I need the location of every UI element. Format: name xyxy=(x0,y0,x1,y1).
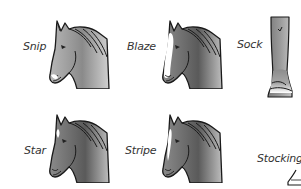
horse-head-stripe-icon xyxy=(160,111,224,183)
label-star: Star xyxy=(24,144,46,157)
label-blaze: Blaze xyxy=(127,40,156,53)
label-snip: Snip xyxy=(23,40,46,53)
label-stripe: Stripe xyxy=(125,144,156,157)
horse-head-snip-icon xyxy=(47,17,111,89)
horse-head-star-icon xyxy=(47,111,111,183)
label-sock: Sock xyxy=(237,38,262,51)
label-stocking: Stocking xyxy=(257,152,301,165)
horse-leg-sock-icon xyxy=(262,15,298,101)
horse-head-blaze-icon xyxy=(160,17,224,89)
horse-leg-stocking-icon xyxy=(284,168,301,189)
